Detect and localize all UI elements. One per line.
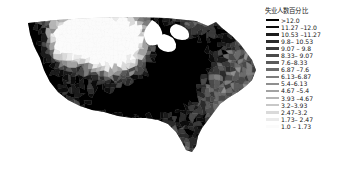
legend-entry: 8.33– 9.07 <box>264 52 337 59</box>
legend-entry-label: 8.33– 9.07 <box>281 52 313 59</box>
legend-entry: 2.47–3.2 <box>264 109 337 116</box>
legend-entry-label: 5.4–6.13 <box>281 80 307 87</box>
legend-color-swatch <box>266 19 279 22</box>
legend-entry-label: 3.2–3.93 <box>281 102 307 109</box>
legend-entry: 6.87 –7.6 <box>264 66 337 73</box>
legend-entry-list: >12.011.27 –12.010.53 –11.279.8– 10.539.… <box>264 17 337 131</box>
legend-entry: 6.13–6.87 <box>264 73 337 80</box>
legend-color-swatch <box>266 26 279 29</box>
legend-color-swatch <box>266 97 279 100</box>
legend-color-swatch <box>266 47 279 50</box>
legend-color-swatch <box>266 118 279 121</box>
legend-entry: 9.07 – 9.8 <box>264 45 337 52</box>
legend-entry: 11.27 –12.0 <box>264 24 337 31</box>
legend-entry-label: 1.0 – 1.73 <box>281 123 311 130</box>
legend-color-swatch <box>266 125 279 128</box>
choropleth-map <box>0 0 262 169</box>
legend-entry: 3.2–3.93 <box>264 102 337 109</box>
legend-entry: 4.67 –5.4 <box>264 87 337 94</box>
us-county-choropleth-svg <box>0 0 262 169</box>
legend-entry-label: 10.53 –11.27 <box>281 31 321 38</box>
legend-color-swatch <box>266 54 279 57</box>
legend-entry: 9.8– 10.53 <box>264 38 337 45</box>
legend-entry: >12.0 <box>264 17 337 24</box>
county-polygons <box>0 0 262 169</box>
legend-entry-label: 7.6–8.33 <box>281 59 307 66</box>
legend-color-swatch <box>266 83 279 86</box>
legend-entry: 1.0 – 1.73 <box>264 123 337 130</box>
legend-entry: 1.73– 2.47 <box>264 116 337 123</box>
legend-entry: 10.53 –11.27 <box>264 31 337 38</box>
legend-color-swatch <box>266 90 279 93</box>
legend-color-swatch <box>266 76 279 79</box>
legend-entry-label: >12.0 <box>281 17 300 24</box>
legend-color-swatch <box>266 61 279 64</box>
legend-entry-label: 9.07 – 9.8 <box>281 45 311 52</box>
legend-entry: 7.6–8.33 <box>264 59 337 66</box>
legend-entry-label: 9.8– 10.53 <box>281 38 313 45</box>
legend-color-swatch <box>266 111 279 114</box>
legend-entry-label: 6.87 –7.6 <box>281 66 309 73</box>
legend-color-swatch <box>266 68 279 71</box>
legend-entry: 5.4–6.13 <box>264 80 337 87</box>
legend: 失业人数百分比 >12.011.27 –12.010.53 –11.279.8–… <box>264 7 337 130</box>
legend-entry-label: 6.13–6.87 <box>281 73 311 80</box>
legend-entry-label: 11.27 –12.0 <box>281 24 317 31</box>
figure-canvas: 失业人数百分比 >12.011.27 –12.010.53 –11.279.8–… <box>0 0 337 169</box>
legend-entry-label: 2.47–3.2 <box>281 109 307 116</box>
legend-entry-label: 4.67 –5.4 <box>281 87 309 94</box>
legend-entry: 3.93 –4.67 <box>264 95 337 102</box>
legend-color-swatch <box>266 33 279 36</box>
legend-entry-label: 3.93 –4.67 <box>281 95 313 102</box>
legend-color-swatch <box>266 40 279 43</box>
legend-entry-label: 1.73– 2.47 <box>281 116 313 123</box>
legend-title: 失业人数百分比 <box>265 7 337 15</box>
legend-color-swatch <box>266 104 279 107</box>
